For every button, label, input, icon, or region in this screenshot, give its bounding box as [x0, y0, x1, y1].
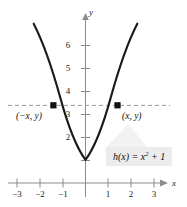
- point-marker-right: [114, 102, 120, 108]
- point-label-left: (−x, y): [16, 112, 42, 122]
- y-tick-label-6: 6: [62, 41, 74, 50]
- x-axis-label: x: [172, 179, 176, 188]
- equation-callout: h(x) = x2 + 1: [106, 147, 172, 166]
- y-axis-label: y: [89, 8, 93, 17]
- x-tick-label-neg1: −1: [55, 190, 71, 199]
- y-tick-label-5: 5: [62, 64, 74, 73]
- x-axis: [8, 179, 168, 188]
- y-tick-label-2: 2: [62, 133, 74, 142]
- graph-canvas: [0, 0, 187, 207]
- figure-parabola: y x −3 −2 −1 1 2 3 2 3 4 5 6 (−x, y) (x,…: [0, 0, 187, 207]
- x-tick-label-neg2: −2: [32, 190, 48, 199]
- x-tick-label-3: 3: [146, 190, 162, 199]
- x-tick-label-neg3: −3: [9, 190, 25, 199]
- point-marker-left: [50, 102, 56, 108]
- equation-lhs: h(x) = x: [113, 151, 145, 162]
- y-tick-label-3: 3: [62, 110, 74, 119]
- x-tick-label-2: 2: [123, 190, 139, 199]
- x-tick-label-1: 1: [100, 190, 116, 199]
- equation-rhs: + 1: [149, 151, 166, 162]
- y-tick-label-4: 4: [62, 87, 74, 96]
- point-label-right: (x, y): [122, 112, 142, 122]
